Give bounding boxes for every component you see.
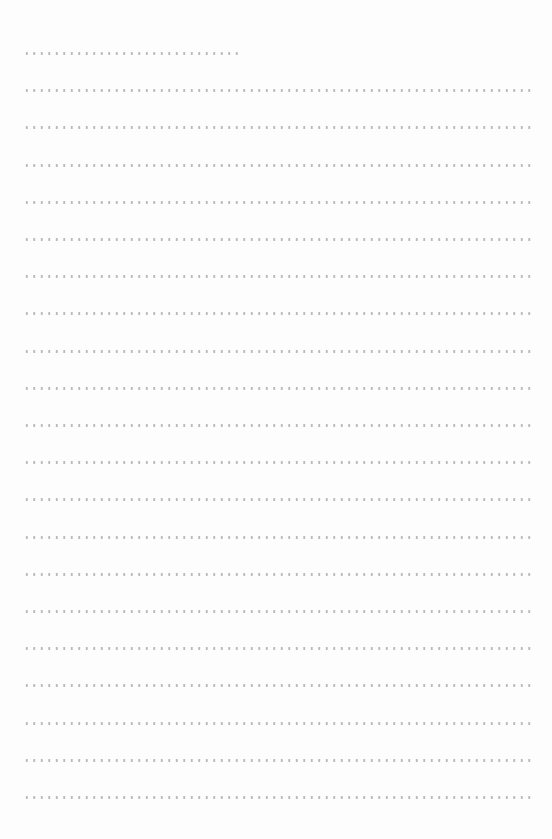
dotted-line <box>23 647 531 650</box>
dotted-line <box>23 498 531 501</box>
dotted-line <box>23 89 531 92</box>
dotted-line <box>23 350 531 353</box>
dotted-line <box>23 796 531 799</box>
dotted-line <box>23 238 531 241</box>
dotted-line <box>23 312 531 315</box>
dotted-line <box>23 164 531 167</box>
dotted-line <box>23 461 531 464</box>
dotted-line <box>23 759 531 762</box>
dotted-line <box>23 573 531 576</box>
dotted-line-page <box>0 0 552 839</box>
dotted-line <box>23 610 531 613</box>
dotted-line-short <box>23 52 241 55</box>
dotted-line <box>23 536 531 539</box>
dotted-line <box>23 275 531 278</box>
dotted-line <box>23 201 531 204</box>
dotted-line <box>23 126 531 129</box>
dotted-line <box>23 424 531 427</box>
dotted-line <box>23 722 531 725</box>
dotted-line <box>23 684 531 687</box>
dotted-line <box>23 387 531 390</box>
